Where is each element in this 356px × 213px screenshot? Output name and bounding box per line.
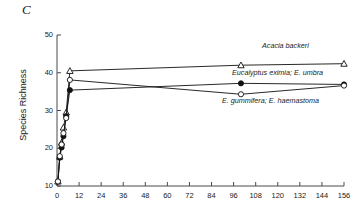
marker-open-circle <box>64 115 69 120</box>
marker-filled-circle <box>238 81 243 86</box>
marker-open-triangle <box>60 124 66 130</box>
figure-panel-c: C Species Richness 1020304050 0122436486… <box>0 0 356 213</box>
y-tick-label: 50 <box>27 30 53 39</box>
marker-filled-circle <box>67 88 72 93</box>
marker-open-circle <box>61 131 66 136</box>
y-tick-label: 30 <box>27 106 53 115</box>
series-line-0 <box>58 64 344 182</box>
marker-open-circle <box>57 154 62 159</box>
y-tick-label: 20 <box>27 143 53 152</box>
eucalyptus-eximia-label: Eucalyptus eximia; E. umbra <box>232 68 323 77</box>
y-tick-label: 40 <box>27 68 53 77</box>
x-tick-label: 156 <box>330 191 356 200</box>
marker-open-circle <box>55 179 60 184</box>
acacia-backeri-label: Acacia backeri <box>262 41 309 50</box>
plot-area <box>0 0 356 213</box>
marker-open-circle <box>59 142 64 147</box>
y-tick-label: 10 <box>27 181 53 190</box>
marker-open-circle <box>67 77 72 82</box>
marker-open-circle <box>341 83 346 88</box>
e-gummifera-label: E. gummifera; E. haemastoma <box>222 96 319 105</box>
